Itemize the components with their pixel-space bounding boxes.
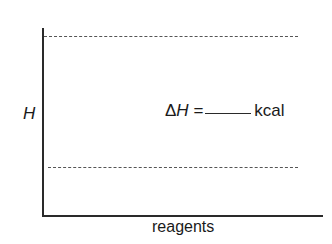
delta-symbol: Δ <box>165 101 176 120</box>
y-axis-label: H <box>23 104 35 124</box>
enthalpy-symbol: H <box>176 101 188 120</box>
x-axis-label: reagents <box>152 218 214 236</box>
y-axis <box>42 28 44 217</box>
upper-enthalpy-level <box>44 36 298 37</box>
equals-sign: = <box>193 101 203 120</box>
unit-label: kcal <box>254 101 284 120</box>
delta-h-equation: ΔH =kcal <box>165 101 285 121</box>
x-axis <box>42 215 323 217</box>
answer-blank <box>205 113 251 114</box>
lower-enthalpy-level <box>48 167 298 168</box>
